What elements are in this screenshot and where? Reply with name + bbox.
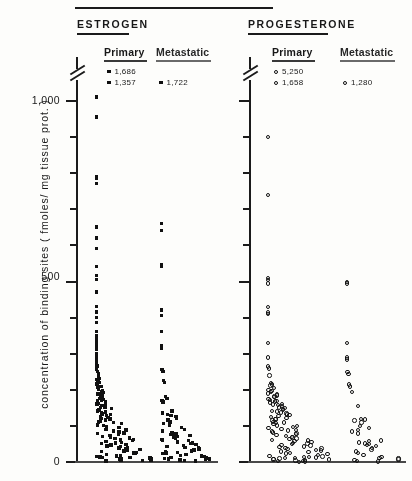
progesterone-primary-data-point bbox=[314, 448, 318, 452]
estrogen-primary-data-point bbox=[120, 441, 123, 444]
estrogen-metastatic-data-point bbox=[160, 330, 163, 333]
filled-square-marker-icon bbox=[159, 81, 163, 85]
estrogen-y-tick-600 bbox=[70, 244, 77, 246]
offscale-values-progesterone-primary: 5,250 1,658 bbox=[274, 66, 304, 88]
estrogen-primary-data-point bbox=[95, 310, 98, 313]
estrogen-primary-data-point bbox=[105, 453, 108, 456]
progesterone-metastatic-data-point bbox=[352, 418, 356, 422]
estrogen-primary-data-point bbox=[114, 441, 117, 444]
estrogen-primary-data-point bbox=[95, 305, 98, 308]
estrogen-metastatic-data-point bbox=[163, 381, 166, 384]
progesterone-metastatic-data-point bbox=[357, 440, 361, 444]
estrogen-primary-data-point bbox=[138, 448, 141, 451]
progesterone-primary-data-point bbox=[266, 312, 270, 316]
estrogen-metastatic-data-point bbox=[160, 308, 163, 311]
y-tick-label-500: 500 bbox=[18, 270, 60, 282]
estrogen-primary-data-point bbox=[141, 459, 144, 462]
progesterone-metastatic-data-point bbox=[355, 459, 359, 463]
progesterone-primary-data-point bbox=[327, 457, 331, 461]
progesterone-primary-data-point bbox=[266, 281, 270, 285]
progesterone-primary-data-point bbox=[303, 459, 307, 463]
estrogen-y-tick-400 bbox=[70, 317, 77, 319]
estrogen-metastatic-data-point bbox=[167, 457, 170, 460]
estrogen-primary-data-point bbox=[95, 115, 98, 118]
progesterone-primary-data-point bbox=[286, 428, 290, 432]
estrogen-axis-line bbox=[76, 57, 78, 463]
progesterone-metastatic-data-point bbox=[350, 390, 354, 394]
progesterone-metastatic-data-point bbox=[356, 451, 360, 455]
estrogen-primary-data-point bbox=[100, 399, 103, 402]
progesterone-metastatic-data-point bbox=[356, 431, 360, 435]
estrogen-metastatic-data-point bbox=[183, 428, 186, 431]
estrogen-metastatic-data-point bbox=[161, 370, 164, 373]
progesterone-y-tick-500 bbox=[239, 281, 250, 283]
progesterone-primary-data-point bbox=[271, 402, 275, 406]
estrogen-metastatic-data-point bbox=[179, 454, 182, 457]
column-header-estrogen-primary: Primary bbox=[104, 46, 145, 58]
estrogen-primary-data-point bbox=[95, 278, 98, 281]
estrogen-primary-data-point bbox=[100, 456, 103, 459]
offscale-value: 1,686 bbox=[115, 67, 137, 76]
estrogen-primary-data-point bbox=[95, 95, 98, 98]
progesterone-primary-data-point bbox=[307, 455, 311, 459]
estrogen-primary-data-point bbox=[119, 459, 122, 462]
estrogen-title-underline bbox=[77, 33, 129, 35]
progesterone-metastatic-data-point bbox=[379, 438, 383, 442]
progesterone-primary-data-point bbox=[319, 448, 323, 452]
offscale-value: 1,722 bbox=[167, 78, 189, 87]
estrogen-metastatic-data-point bbox=[165, 397, 168, 400]
progesterone-primary-data-point bbox=[283, 456, 287, 460]
y-axis-label: concentration of binding sites ( fmoles/… bbox=[38, 84, 50, 424]
estrogen-metastatic-data-point bbox=[197, 447, 200, 450]
estrogen-primary-data-point bbox=[95, 247, 98, 250]
progesterone-primary-data-point bbox=[288, 451, 292, 455]
estrogen-primary-data-point bbox=[117, 446, 120, 449]
estrogen-primary-data-point bbox=[105, 444, 108, 447]
estrogen-primary-data-point bbox=[96, 432, 99, 435]
estrogen-metastatic-data-point bbox=[178, 459, 181, 462]
progesterone-axis-break-icon bbox=[242, 68, 259, 82]
progesterone-metastatic-data-point bbox=[361, 453, 365, 457]
estrogen-y-tick-700 bbox=[70, 208, 77, 210]
progesterone-primary-data-point bbox=[274, 433, 278, 437]
estrogen-metastatic-data-point bbox=[169, 414, 172, 417]
estrogen-y-tick-800 bbox=[70, 172, 77, 174]
estrogen-primary-data-point bbox=[95, 225, 98, 228]
estrogen-primary-data-point bbox=[95, 182, 98, 185]
estrogen-primary-data-point bbox=[100, 450, 103, 453]
progesterone-primary-data-point bbox=[314, 455, 318, 459]
estrogen-primary-data-point bbox=[103, 405, 106, 408]
estrogen-primary-data-point bbox=[112, 429, 115, 432]
estrogen-primary-data-point bbox=[95, 290, 98, 293]
progesterone-primary-data-point bbox=[308, 443, 312, 447]
progesterone-primary-data-point bbox=[279, 449, 283, 453]
estrogen-metastatic-data-point bbox=[160, 222, 163, 225]
estrogen-metastatic-data-point bbox=[165, 445, 168, 448]
y-tick-label-0: 0 bbox=[18, 455, 60, 467]
estrogen-metastatic-data-point bbox=[160, 229, 163, 232]
progesterone-primary-data-point bbox=[266, 135, 270, 139]
progesterone-primary-data-point bbox=[270, 438, 274, 442]
estrogen-primary-data-point bbox=[113, 437, 116, 440]
progesterone-metastatic-data-point bbox=[365, 443, 369, 447]
estrogen-y-tick-200 bbox=[70, 389, 77, 391]
progesterone-metastatic-data-point bbox=[348, 384, 352, 388]
offscale-values-estrogen-primary: 1,686 1,357 bbox=[107, 66, 136, 88]
estrogen-primary-data-point bbox=[96, 423, 99, 426]
estrogen-primary-data-point bbox=[131, 439, 134, 442]
estrogen-y-tick-1000 bbox=[66, 100, 77, 102]
offscale-row: 1,658 bbox=[274, 77, 304, 88]
estrogen-primary-data-point bbox=[109, 443, 112, 446]
estrogen-metastatic-data-point bbox=[189, 442, 192, 445]
estrogen-primary-data-point bbox=[95, 236, 98, 239]
column-header-progesterone-primary: Primary bbox=[272, 46, 313, 58]
estrogen-primary-header-underline bbox=[104, 60, 147, 62]
estrogen-metastatic-data-point bbox=[183, 459, 186, 462]
progesterone-primary-data-point bbox=[325, 452, 329, 456]
progesterone-metastatic-data-point bbox=[356, 404, 360, 408]
estrogen-metastatic-header-underline bbox=[156, 60, 211, 62]
offscale-row: 1,722 bbox=[159, 77, 188, 88]
estrogen-metastatic-data-point bbox=[161, 438, 164, 441]
progesterone-metastatic-data-point bbox=[346, 372, 350, 376]
open-circle-marker-icon bbox=[274, 81, 278, 85]
